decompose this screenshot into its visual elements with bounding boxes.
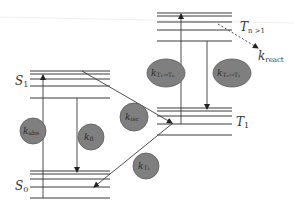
t1-label: T1: [236, 115, 249, 130]
k-react-label: kreact: [258, 49, 284, 64]
k-fl-ellipse: kfl: [78, 124, 104, 150]
jablonski-diagram: S1 S0 T1 Tn >1 kreact kabs kfl kisc kT₁ …: [0, 0, 294, 207]
s1-label: S1: [15, 74, 28, 89]
t1-decay-arrow: [94, 123, 173, 187]
top-rule: [0, 17, 294, 23]
k-abs-ellipse: kabs: [20, 118, 46, 144]
k-t1-ellipse: kT₁: [133, 153, 159, 179]
k-isc-ellipse: kisc: [120, 103, 148, 131]
t1-levels: [157, 108, 232, 135]
k-tn-t1-ellipse: kTₙ→T₁: [213, 59, 251, 87]
s0-levels: [30, 171, 110, 198]
tn-levels: [157, 13, 232, 41]
s1-levels: [30, 71, 110, 98]
s0-label: S0: [15, 179, 28, 194]
k-t1-tn-ellipse: kT₁→Tₙ: [147, 59, 185, 87]
